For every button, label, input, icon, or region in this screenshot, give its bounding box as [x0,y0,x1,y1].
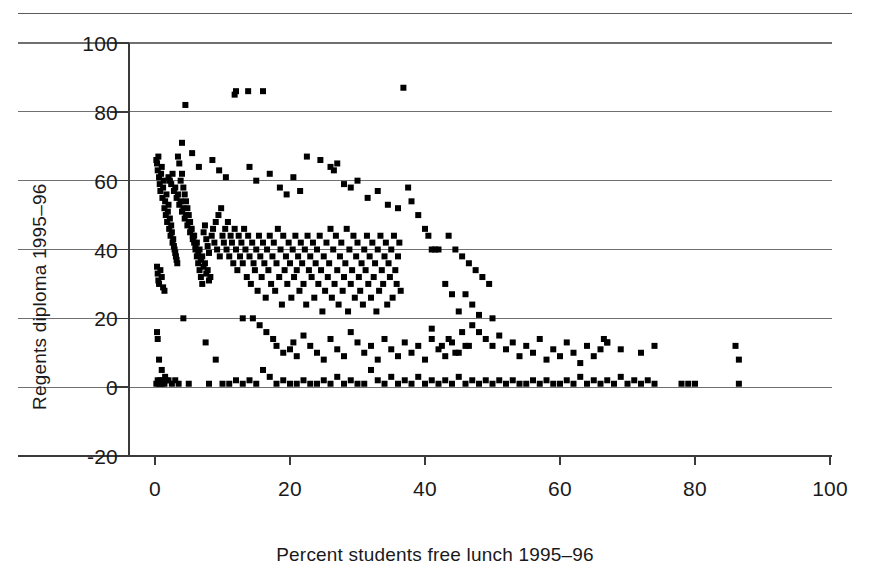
data-point [679,381,685,387]
x-tick-label-0: 0 [125,478,185,499]
data-point [422,357,428,363]
data-point [591,377,597,383]
data-point [226,253,232,259]
data-point [176,381,182,387]
data-point [205,243,211,249]
data-point [537,336,543,342]
data-point [469,377,475,383]
data-point [163,191,169,197]
data-point [198,274,204,280]
x-tick-label-60: 60 [530,478,590,499]
data-point [322,288,328,294]
data-point [302,247,308,253]
data-point [469,322,475,328]
data-point [544,377,550,383]
data-point [199,253,205,259]
data-point [550,381,556,387]
data-point [238,240,244,246]
data-point [291,274,297,280]
data-point [425,233,431,239]
data-point [234,267,240,273]
data-point [479,274,485,280]
data-point [155,154,161,160]
data-point [329,295,335,301]
data-point [429,377,435,383]
data-point [422,226,428,232]
data-point [375,357,381,363]
data-point [352,295,358,301]
data-point [436,381,442,387]
data-point [233,247,239,253]
data-point [230,260,236,266]
data-point [564,377,570,383]
data-point [442,281,448,287]
data-point [186,219,192,225]
data-point [301,377,307,383]
data-point [317,233,323,239]
data-point [383,240,389,246]
data-point [380,281,386,287]
data-point [337,253,343,259]
data-point [247,377,253,383]
data-point [346,247,352,253]
data-point [356,274,362,280]
data-point [209,233,215,239]
data-point [395,381,401,387]
data-point [268,281,274,287]
data-point [466,343,472,349]
data-point [375,188,381,194]
data-point [225,219,231,225]
data-point [692,381,698,387]
data-point [328,381,334,387]
data-point [296,288,302,294]
data-point [341,274,347,280]
data-point [384,302,390,308]
data-point [456,374,462,380]
data-point [402,339,408,345]
data-point [598,346,604,352]
x-tick-label-80: 80 [665,478,725,499]
data-point [459,253,465,259]
data-point [311,295,317,301]
data-point [253,247,259,253]
data-point [253,178,259,184]
data-point [290,174,296,180]
data-point [429,326,435,332]
data-point [463,381,469,387]
data-point [321,253,327,259]
data-point [334,160,340,166]
data-point [221,240,227,246]
data-point [530,350,536,356]
data-point [638,350,644,356]
data-point [275,226,281,232]
data-point [439,343,445,349]
data-point [348,185,354,191]
data-point [209,157,215,163]
data-point [449,381,455,387]
data-point [314,350,320,356]
data-point [517,353,523,359]
data-points-group [153,85,742,387]
data-point [405,185,411,191]
data-point [340,288,346,294]
data-point [315,281,321,287]
data-point [537,381,543,387]
data-point [178,178,184,184]
data-point [251,260,257,266]
data-point [355,178,361,184]
data-point [218,205,224,211]
data-point [415,374,421,380]
data-point [544,357,550,363]
data-point [168,222,174,228]
data-point [388,374,394,380]
data-point [279,302,285,308]
data-point [350,233,356,239]
data-point [301,281,307,287]
data-point [201,229,207,235]
data-point [210,226,216,232]
data-point [409,350,415,356]
data-point [157,267,163,273]
data-point [338,240,344,246]
data-point [270,336,276,342]
data-point [463,291,469,297]
